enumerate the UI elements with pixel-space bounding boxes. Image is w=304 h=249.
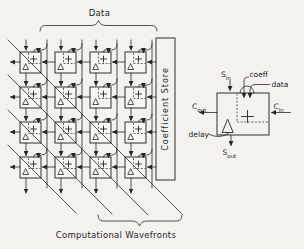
s-out-label: Sout [223,148,238,159]
s-in-label: Sin [221,70,231,81]
sum-signal-arrows [26,40,131,193]
wavefront-label: Computational Wavefronts [56,230,177,240]
c-out-label: Cout [192,102,207,113]
c-in-label: Cin [274,102,285,113]
plus-icon [242,111,254,123]
data-arrow [250,85,270,98]
pe-detail-box [217,93,269,135]
wavefront-array-figure: Coefficient Store Data Computational Wav… [0,0,304,249]
data-brace [40,21,157,32]
pe-detail: Sin coeff data Cout Cin delay Sout [189,70,291,159]
delta-delay-icon [222,120,233,133]
coeff-arrow [244,77,249,98]
data-input-label: data [272,80,289,89]
data-tap-arc [240,86,254,93]
coefficient-store-label: Coefficient Store [161,67,170,151]
pe-detail-partition-dashed [237,94,269,123]
coefficient-lines [11,62,157,167]
coefficient-store: Coefficient Store [156,38,175,180]
delay-label: delay [189,130,210,139]
data-label: Data [89,8,111,18]
coeff-label: coeff [250,70,269,79]
wavefront-brace [98,215,182,226]
